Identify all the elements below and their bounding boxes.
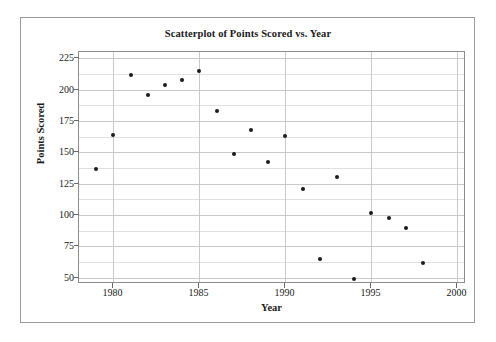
gridline-horizontal-minor: [79, 262, 464, 263]
data-point: [215, 109, 219, 113]
data-point: [146, 93, 150, 97]
gridline-horizontal-minor: [79, 168, 464, 169]
data-point: [180, 78, 184, 82]
gridline-horizontal-minor: [79, 231, 464, 232]
x-axis-tick-mark: [198, 283, 199, 288]
data-point: [163, 83, 167, 87]
x-axis-tick-label: 1995: [345, 287, 395, 298]
x-axis-tick-label: 2000: [431, 287, 481, 298]
x-axis-tick-label: 1980: [87, 287, 137, 298]
y-axis-title: Points Scored: [35, 74, 46, 194]
figure-canvas: Scatterplot of Points Scored vs. Year 50…: [0, 0, 496, 342]
y-axis-tick-mark: [74, 151, 79, 152]
data-point: [352, 277, 356, 281]
y-axis-tick-mark: [74, 245, 79, 246]
chart-title: Scatterplot of Points Scored vs. Year: [0, 28, 496, 39]
gridline-horizontal: [79, 152, 464, 153]
gridline-vertical: [371, 52, 372, 282]
x-axis-tick-mark: [370, 283, 371, 288]
gridline-vertical: [199, 52, 200, 282]
y-axis-tick-mark: [74, 89, 79, 90]
data-point: [197, 69, 201, 73]
data-point: [404, 226, 408, 230]
gridline-horizontal-minor: [79, 199, 464, 200]
data-point: [387, 216, 391, 220]
y-axis-tick-mark: [74, 183, 79, 184]
data-point: [266, 160, 270, 164]
y-axis-tick-label: 100: [40, 209, 74, 220]
gridline-vertical: [457, 52, 458, 282]
x-axis-tick-mark: [456, 283, 457, 288]
data-point: [94, 167, 98, 171]
gridline-horizontal-minor: [79, 137, 464, 138]
gridline-horizontal: [79, 246, 464, 247]
y-axis-tick-label: 50: [40, 271, 74, 282]
data-point: [421, 261, 425, 265]
y-axis-tick-mark: [74, 57, 79, 58]
y-axis-tick-label: 225: [40, 52, 74, 63]
plot-area: [78, 51, 465, 283]
gridline-horizontal: [79, 184, 464, 185]
x-axis-tick-label: 1985: [173, 287, 223, 298]
gridline-horizontal: [79, 121, 464, 122]
y-axis-tick-mark: [74, 277, 79, 278]
gridline-horizontal-minor: [79, 74, 464, 75]
data-point: [318, 257, 322, 261]
data-point: [283, 134, 287, 138]
data-point: [111, 133, 115, 137]
gridline-horizontal: [79, 90, 464, 91]
gridline-horizontal-minor: [79, 105, 464, 106]
data-point: [232, 152, 236, 156]
x-axis-tick-mark: [284, 283, 285, 288]
x-axis-title: Year: [78, 302, 465, 313]
x-axis-tick-label: 1990: [259, 287, 309, 298]
gridline-vertical: [113, 52, 114, 282]
y-axis-tick-mark: [74, 120, 79, 121]
gridline-horizontal: [79, 58, 464, 59]
data-point: [369, 211, 373, 215]
data-point: [249, 128, 253, 132]
data-point: [335, 175, 339, 179]
gridline-horizontal: [79, 215, 464, 216]
gridline-vertical: [285, 52, 286, 282]
gridline-horizontal: [79, 278, 464, 279]
x-axis-tick-mark: [112, 283, 113, 288]
data-point: [301, 187, 305, 191]
y-axis-tick-label: 75: [40, 240, 74, 251]
y-axis-tick-mark: [74, 214, 79, 215]
data-point: [129, 73, 133, 77]
